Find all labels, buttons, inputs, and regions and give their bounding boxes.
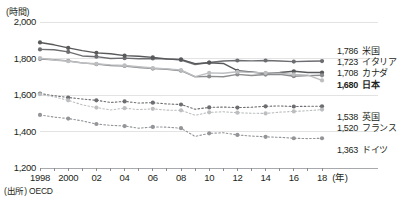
x-axis-tick: 1998	[30, 173, 50, 183]
x-axis-unit: (年)	[332, 173, 347, 183]
x-axis-tick: 14	[261, 173, 271, 183]
series-marker	[264, 135, 268, 139]
series-marker	[292, 72, 296, 76]
x-axis-tick: 12	[232, 173, 242, 183]
source-note: (出所) OECD	[4, 186, 53, 196]
series-marker	[235, 111, 239, 115]
series-marker	[123, 63, 127, 67]
series-marker	[179, 68, 183, 72]
end-label-value: 1,786	[330, 46, 358, 56]
series-marker	[151, 125, 155, 129]
series-marker	[38, 40, 42, 44]
end-label-country: 日本	[362, 80, 379, 90]
series-marker	[94, 105, 98, 109]
series-marker	[66, 46, 70, 50]
series-marker	[151, 55, 155, 59]
working-hours-line-chart: (時間) 2,0001,8001,6001,4001,200 199820000…	[0, 0, 414, 202]
end-label-country: 英国	[362, 112, 379, 122]
end-label-country: カナダ	[362, 68, 388, 78]
end-label-フランス: 1,520フランス	[330, 123, 397, 133]
x-axis-tick: 16	[289, 173, 299, 183]
series-marker	[123, 106, 127, 110]
series-marker	[66, 116, 70, 120]
y-axis-tick: 1,800	[2, 54, 36, 64]
series-marker	[179, 126, 183, 130]
series-marker	[66, 50, 70, 54]
series-marker	[38, 113, 42, 117]
series-marker	[207, 131, 211, 135]
end-label-value: 1,723	[330, 57, 358, 67]
series-marker	[207, 71, 211, 75]
series-marker	[66, 98, 70, 102]
series-marker	[292, 109, 296, 113]
series-marker	[151, 66, 155, 70]
end-label-カナダ: 1,708カナダ	[330, 68, 388, 78]
series-marker	[235, 70, 239, 74]
x-axis-tick: 04	[120, 173, 130, 183]
series-marker	[207, 110, 211, 114]
series-marker	[179, 57, 183, 61]
y-axis-tick: 1,400	[2, 127, 36, 137]
series-marker	[264, 71, 268, 75]
end-label-ドイツ: 1,363ドイツ	[330, 145, 388, 155]
end-label-value: 1,520	[330, 123, 358, 133]
series-marker	[207, 61, 211, 65]
end-label-米国: 1,786米国	[330, 46, 379, 56]
series-marker	[292, 60, 296, 64]
series-marker	[123, 124, 127, 128]
series-marker	[264, 111, 268, 115]
x-axis-tick: 18	[317, 173, 327, 183]
series-marker	[264, 58, 268, 62]
x-axis-tick: 02	[91, 173, 101, 183]
end-label-value: 1,708	[330, 68, 358, 78]
series-line-4	[40, 94, 322, 110]
end-label-value: 1,538	[330, 112, 358, 122]
series-marker	[292, 104, 296, 108]
series-marker	[235, 105, 239, 109]
series-marker	[151, 101, 155, 105]
end-label-country: 米国	[362, 46, 379, 56]
end-label-country: イタリア	[362, 57, 397, 67]
x-axis-tick: 2000	[58, 173, 78, 183]
end-label-country: フランス	[362, 123, 397, 133]
series-marker	[207, 105, 211, 109]
series-marker	[123, 99, 127, 103]
series-marker	[38, 56, 42, 60]
y-axis-tick: 2,000	[2, 17, 36, 27]
series-marker	[94, 51, 98, 55]
end-label-value: 1,363	[330, 145, 358, 155]
series-marker	[38, 92, 42, 96]
series-marker	[179, 108, 183, 112]
end-label-value: 1,680	[330, 80, 358, 90]
series-marker	[179, 102, 183, 106]
end-label-イタリア: 1,723イタリア	[330, 57, 397, 67]
series-marker	[235, 58, 239, 62]
x-axis-tick: 08	[176, 173, 186, 183]
end-label-日本: 1,680日本	[330, 80, 379, 90]
x-axis-tick: 06	[148, 173, 158, 183]
series-marker	[94, 55, 98, 59]
x-axis-tick: 10	[204, 173, 214, 183]
series-marker	[235, 133, 239, 137]
series-marker	[292, 136, 296, 140]
series-marker	[123, 53, 127, 57]
series-marker	[151, 107, 155, 111]
series-marker	[264, 104, 268, 108]
series-marker	[38, 47, 42, 51]
y-axis-tick: 1,600	[2, 90, 36, 100]
end-label-英国: 1,538英国	[330, 112, 379, 122]
series-marker	[94, 98, 98, 102]
series-marker	[66, 59, 70, 63]
series-marker	[94, 62, 98, 66]
end-label-country: ドイツ	[362, 145, 388, 155]
series-marker	[94, 122, 98, 126]
